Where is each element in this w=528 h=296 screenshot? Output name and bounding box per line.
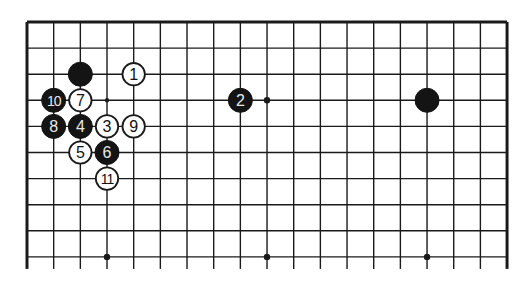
white-stone-3: 3 [96,115,118,137]
move-number: 8 [49,118,58,135]
move-number: 9 [129,118,138,135]
black-stone-2: 2 [228,88,252,112]
black-stone-4: 4 [68,114,92,138]
stone-body [68,62,92,86]
move-number: 3 [103,118,112,135]
black-stone-8: 8 [42,114,66,138]
go-board: 1234567891011 [0,0,528,296]
star-point [264,254,270,260]
white-stone-1: 1 [122,63,144,85]
move-number: 7 [76,92,85,109]
point-marker [105,98,109,102]
move-number: 10 [47,93,62,109]
star-point [424,254,430,260]
move-number: 5 [76,144,85,161]
white-stone-9: 9 [122,115,144,137]
black-stone [68,62,92,86]
move-number: 4 [76,118,85,135]
black-stone [415,88,439,112]
star-point [104,254,110,260]
black-stone-10: 10 [42,88,66,112]
black-stone-6: 6 [95,141,119,165]
white-stone-7: 7 [69,89,91,111]
markers [105,98,109,102]
move-number: 2 [236,92,245,109]
move-number: 1 [129,66,138,83]
move-number: 6 [103,144,112,161]
white-stone-11: 11 [96,167,118,189]
white-stone-5: 5 [69,141,91,163]
stone-body [415,88,439,112]
star-point [264,97,270,103]
move-number: 11 [101,171,115,187]
